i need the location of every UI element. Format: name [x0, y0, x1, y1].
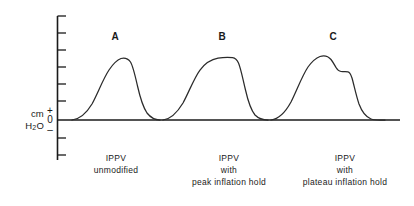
caption-a: IPPV unmodified	[62, 152, 170, 176]
waveform-b-path	[163, 57, 268, 120]
h2o-o: O	[36, 120, 44, 131]
caption-c-line-3: plateau inflation hold	[276, 176, 414, 188]
caption-b: IPPV with peak inflation hold	[166, 152, 292, 188]
caption-b-line-1: IPPV	[166, 152, 292, 164]
caption-a-line-2: unmodified	[62, 164, 170, 176]
caption-c-line-2: with	[276, 164, 414, 176]
y-axis-unit-cm: cm	[8, 108, 44, 119]
caption-a-line-1: IPPV	[62, 152, 170, 164]
caption-b-line-2: with	[166, 164, 292, 176]
waveform-label-a: A	[100, 31, 130, 42]
airway-pressure-waveform-figure: cm H2O + 0 – A B C IPPV unmodified IPPV …	[0, 0, 414, 206]
waveform-a-path	[72, 58, 160, 120]
caption-c: IPPV with plateau inflation hold	[276, 152, 414, 188]
caption-c-line-1: IPPV	[276, 152, 414, 164]
caption-b-line-3: peak inflation hold	[166, 176, 292, 188]
y-axis-group	[58, 16, 67, 160]
waveform-label-c: C	[318, 31, 348, 42]
waveform-label-b: B	[207, 31, 237, 42]
y-axis-ticks	[58, 16, 67, 155]
waveform-c-path	[271, 56, 385, 120]
y-axis-negative-sign: –	[44, 125, 56, 135]
y-axis-unit-h2o: H2O	[8, 120, 44, 133]
